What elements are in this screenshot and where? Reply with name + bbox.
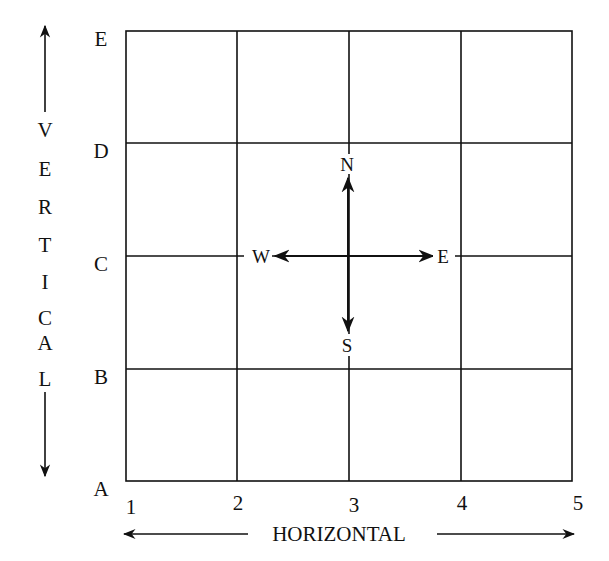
row-label-b: B	[94, 365, 108, 389]
col-label-3: 3	[349, 493, 360, 517]
vertical-title-letter: A	[37, 331, 53, 355]
col-label-1: 1	[126, 495, 137, 519]
row-label-d: D	[93, 139, 108, 163]
compass-south-label: S	[342, 335, 353, 356]
compass-west-label: W	[252, 246, 270, 267]
col-label-5: 5	[573, 491, 584, 515]
vertical-title-letter: I	[42, 270, 49, 294]
row-label-e: E	[95, 27, 108, 51]
horizontal-axis-labels: 1 2 3 4 5	[126, 491, 584, 519]
vertical-title-letter: V	[37, 118, 52, 142]
coordinate-grid-diagram: E D C B A 1 2 3 4 5 V E R T I C A L HORI…	[0, 0, 609, 561]
col-label-2: 2	[233, 491, 244, 515]
vertical-title-letter: L	[39, 367, 52, 391]
row-label-c: C	[94, 252, 108, 276]
horizontal-title: HORIZONTAL	[272, 522, 406, 546]
vertical-title-letter: C	[38, 306, 52, 330]
vertical-title-letter: R	[38, 195, 52, 219]
horizontal-axis-title: HORIZONTAL	[124, 522, 574, 546]
compass-north-label: N	[340, 154, 354, 175]
vertical-axis-title: V E R T I C A L	[37, 26, 53, 476]
vertical-title-letter: E	[39, 157, 52, 181]
vertical-axis-labels: E D C B A	[93, 27, 109, 501]
row-label-a: A	[93, 477, 109, 501]
col-label-4: 4	[457, 491, 468, 515]
vertical-title-letter: T	[39, 233, 52, 257]
compass-east-label: E	[437, 246, 449, 267]
